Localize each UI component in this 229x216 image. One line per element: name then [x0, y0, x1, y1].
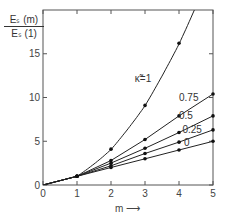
series-marker [211, 139, 215, 143]
y-tick-label: 10 [29, 92, 41, 103]
series-marker [143, 146, 147, 150]
y-tick-label: 15 [29, 48, 41, 59]
series-marker [211, 92, 215, 96]
series-marker [177, 140, 181, 144]
series-label: 0 [184, 137, 190, 148]
series-markers [75, 41, 215, 178]
x-tick-label: 2 [108, 188, 114, 199]
series-marker [177, 148, 181, 152]
series-marker [109, 166, 113, 170]
y-tick-label: 5 [34, 136, 40, 147]
x-tick-label: 3 [142, 188, 148, 199]
x-tick-label: 5 [210, 188, 216, 199]
series-label: 0.25 [182, 124, 202, 135]
series-marker [143, 138, 147, 142]
series-line [43, 141, 213, 185]
y-tick-label: 0 [34, 180, 40, 191]
series-label: 0.75 [179, 92, 199, 103]
series-label: κ̃=1 [135, 73, 152, 84]
series-marker [211, 114, 215, 118]
series-marker [143, 152, 147, 156]
x-tick-label: 1 [74, 188, 80, 199]
y-axis-label: Eₛ (m) Eₛ (1) [4, 14, 44, 39]
series-marker [143, 157, 147, 161]
series-marker [211, 128, 215, 132]
series-marker [177, 131, 181, 135]
x-axis-label: m ⟶ [115, 203, 140, 214]
series-label: 0.5 [179, 110, 193, 121]
y-axis-label-denominator: Eₛ (1) [4, 27, 44, 39]
y-axis-label-numerator: Eₛ (m) [4, 14, 44, 27]
x-tick-label: 4 [176, 188, 182, 199]
series-marker [177, 41, 181, 45]
series-labels: κ̃=10.750.50.250 [135, 73, 203, 148]
series-marker [143, 104, 147, 108]
series-marker [75, 174, 79, 178]
ticks: 012345051015 [29, 10, 216, 199]
x-tick-label: 0 [40, 188, 46, 199]
series-marker [109, 147, 113, 151]
